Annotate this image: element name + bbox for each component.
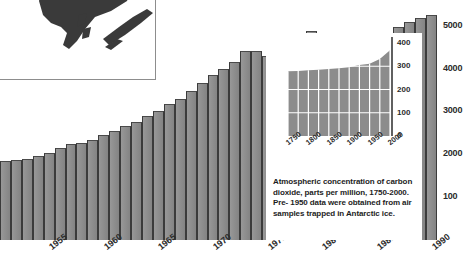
co2-inset-panel: 0100200300400175018001850190019502000 At… [266,33,422,240]
bar [22,159,33,240]
co2-caption-line: Atmospheric concentration of carbon [273,177,419,188]
bar [120,126,131,240]
x-axis-bottom: 19551960196519701975198019851990 [0,240,473,272]
bar [98,135,109,240]
y-axis-tick-label: 3000 [443,105,462,115]
co2-caption-line: Pre- 1950 data were obtained from air [273,198,419,209]
bar [251,51,262,240]
bar [218,69,229,240]
bar [11,160,22,240]
map-inset-panel [0,0,156,80]
co2-y-axis-tick-label: 400 [397,38,410,47]
co2-caption: Atmospheric concentration of carbondioxi… [273,177,419,219]
bar [186,91,197,240]
bar [0,161,11,240]
bar [33,156,44,240]
co2-caption-line: samples trapped in Antarctic ice. [273,209,419,220]
bar [109,131,120,240]
bar [426,15,437,240]
co2-area-chart-svg [266,33,422,178]
bar [66,144,77,240]
chart-page: 1002000300040005000 19551960196519701975… [0,0,473,272]
co2-area-chart: 0100200300400175018001850190019502000 [266,33,422,178]
bar [142,116,153,240]
bar [229,62,240,240]
y-axis-tick-label: 2000 [443,148,462,158]
bar [175,99,186,240]
bar [131,122,142,240]
y-axis-tick-label: 100 [443,191,457,201]
bar [44,153,55,240]
co2-caption-line: dioxide, parts per million, 1750-2000. [273,188,419,199]
antarctic-peninsula-map-icon [0,0,156,80]
y-axis-right: 1002000300040005000 [437,0,473,240]
co2-y-axis-tick-label: 300 [397,61,410,70]
y-axis-tick-label: 5000 [443,20,462,30]
co2-y-axis-tick-label: 200 [397,85,410,94]
bar [55,148,66,240]
bar [153,111,164,240]
bar [197,83,208,240]
bar [76,143,87,240]
bar [240,51,251,240]
bar [208,75,219,240]
bar [164,104,175,240]
bar [87,140,98,240]
y-axis-tick-label: 4000 [443,63,462,73]
co2-y-axis-tick-label: 100 [397,108,410,117]
